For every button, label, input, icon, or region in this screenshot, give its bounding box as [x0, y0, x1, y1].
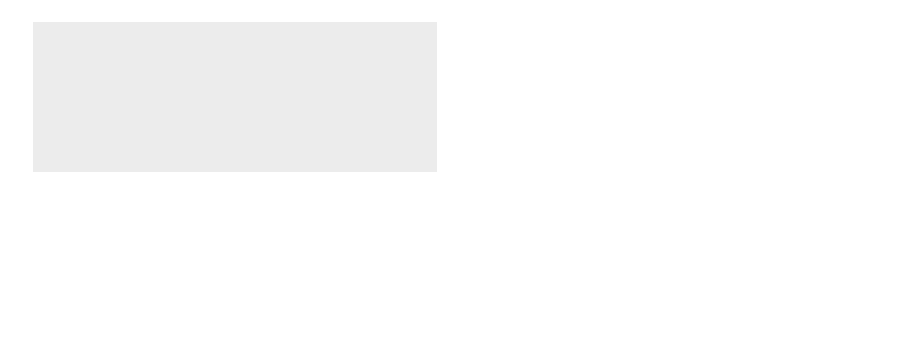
- paper-machine-diagram: [0, 0, 915, 344]
- surface: [33, 22, 437, 172]
